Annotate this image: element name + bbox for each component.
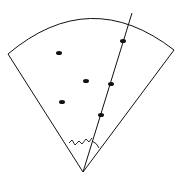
sector-diagram (0, 0, 182, 179)
dot (83, 79, 89, 83)
dot (59, 100, 65, 104)
ray-line (83, 13, 132, 172)
angle-arc-left (69, 138, 92, 145)
dot (108, 82, 114, 86)
sector-outline (8, 18, 174, 172)
dot (120, 39, 126, 43)
dot (98, 113, 104, 117)
dot (56, 51, 62, 55)
dots (56, 39, 126, 117)
angle-arc-right (92, 141, 99, 148)
